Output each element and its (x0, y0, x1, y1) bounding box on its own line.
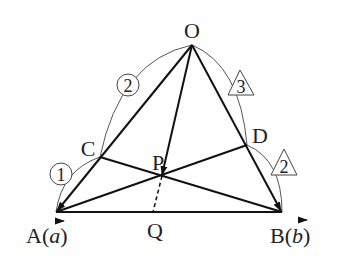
ratio-db-value: 2 (280, 157, 289, 177)
vector-oa (57, 45, 192, 211)
label-c: C (81, 136, 96, 161)
ratio-ca-value: 1 (57, 165, 66, 185)
ratio-od-value: 3 (237, 77, 246, 97)
label-q: Q (147, 218, 163, 243)
label-p: P (152, 150, 164, 175)
ratio-ca-marker: 1 (50, 163, 72, 185)
svg-text:B(b): B(b) (270, 223, 310, 248)
vector-triangle-diagram: 2 1 3 2 O C D P Q A(a) B(b) (0, 0, 340, 273)
ratio-oc-marker: 2 (117, 74, 139, 96)
svg-text:A(a): A(a) (26, 223, 68, 248)
label-a: A(a) (26, 221, 68, 248)
label-o: O (184, 18, 200, 43)
ratio-db-marker: 2 (271, 149, 297, 177)
ratio-oc-value: 2 (124, 76, 133, 96)
segment-pq (153, 176, 162, 212)
label-d: D (252, 123, 268, 148)
label-b: B(b) (270, 220, 310, 248)
